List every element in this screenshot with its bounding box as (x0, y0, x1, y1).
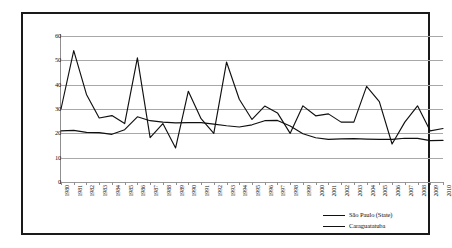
x-tick-label-1991: 1991 (204, 185, 210, 197)
x-tick-label-1987: 1987 (153, 185, 159, 197)
x-tick-label-1983: 1983 (102, 185, 108, 197)
legend-line-swatch (323, 215, 345, 216)
x-tick-2010 (443, 182, 444, 185)
x-tick-label-1980: 1980 (64, 185, 70, 197)
x-tick-label-1988: 1988 (166, 185, 172, 197)
x-axis-tick-labels: 1980198119821983198419851986198719881989… (61, 185, 443, 213)
series-container (61, 36, 443, 182)
series-line-caraguatatuba (61, 51, 443, 148)
x-tick-label-1993: 1993 (230, 185, 236, 197)
legend-label: Caraguatatuba (349, 223, 385, 230)
x-tick-label-2000: 2000 (319, 185, 325, 197)
x-tick-label-2007: 2007 (408, 185, 414, 197)
x-tick-label-2002: 2002 (344, 185, 350, 197)
x-tick-label-1984: 1984 (115, 185, 121, 197)
x-tick-label-2010: 2010 (446, 185, 452, 197)
chart-legend: São Paulo (State) Caraguatatuba (323, 210, 443, 236)
x-tick-label-2001: 2001 (331, 185, 337, 197)
x-tick-label-2003: 2003 (357, 185, 363, 197)
x-tick-label-1999: 1999 (306, 185, 312, 197)
x-tick-label-1989: 1989 (179, 185, 185, 197)
x-tick-label-1985: 1985 (128, 185, 134, 197)
x-tick-label-1997: 1997 (280, 185, 286, 197)
x-tick-label-2004: 2004 (370, 185, 376, 197)
chart-outer-frame: 6050403020100 19801981198219831984198519… (21, 12, 430, 235)
y-axis-tick-labels: 6050403020100 (45, 36, 61, 182)
legend-entry-sao-paulo-state: São Paulo (State) (323, 210, 392, 221)
x-tick-label-1990: 1990 (191, 185, 197, 197)
legend-line-swatch (323, 226, 345, 227)
x-tick-label-1986: 1986 (140, 185, 146, 197)
chart-figure: 6050403020100 19801981198219831984198519… (0, 0, 452, 248)
x-tick-label-1995: 1995 (255, 185, 261, 197)
legend-label: São Paulo (State) (349, 212, 392, 219)
legend-entry-caraguatatuba: Caraguatatuba (323, 221, 385, 232)
x-tick-label-2006: 2006 (395, 185, 401, 197)
series-line-s-o-paulo-state (61, 117, 443, 141)
x-tick-label-1994: 1994 (242, 185, 248, 197)
x-tick-label-2009: 2009 (433, 185, 439, 197)
plot-area (61, 36, 443, 182)
x-tick-label-1992: 1992 (217, 185, 223, 197)
x-tick-label-1996: 1996 (268, 185, 274, 197)
x-tick-label-2005: 2005 (382, 185, 388, 197)
x-tick-label-2008: 2008 (421, 185, 427, 197)
x-tick-label-1981: 1981 (77, 185, 83, 197)
x-tick-label-1998: 1998 (293, 185, 299, 197)
x-tick-label-1982: 1982 (89, 185, 95, 197)
